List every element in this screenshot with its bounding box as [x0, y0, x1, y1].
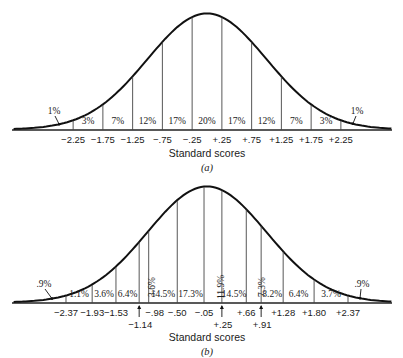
tick-label: −.50 [168, 307, 187, 318]
tick-label: −1.14 [128, 319, 152, 330]
tick-label: +.25 [212, 134, 231, 145]
tail-pointer [55, 116, 59, 124]
percent-label: 12% [258, 116, 276, 126]
percent-label: 17% [228, 116, 246, 126]
figure-caption: (b) [201, 346, 214, 358]
tail-percent-label: 1% [351, 106, 364, 116]
percent-label: 6.4% [118, 289, 138, 299]
chart-a: −2.25−1.75−1.25−.75−.25+.25+.75+1.25+1.7… [12, 14, 392, 175]
tick-label: +.91 [253, 319, 272, 330]
tick-label: −2.37 [54, 307, 78, 318]
tick-label: −1.75 [91, 134, 115, 145]
percent-label: 7% [111, 116, 124, 126]
arrow-head-icon [137, 305, 141, 309]
tick-label: −.98 [145, 307, 164, 318]
percent-label: 17% [169, 116, 187, 126]
tick-label: −.25 [183, 134, 202, 145]
figure-caption: (a) [201, 162, 214, 174]
percent-label: 17.3% [178, 289, 203, 299]
percent-label: 12% [139, 116, 157, 126]
chart-b: −2.37−1.93−1.53−1.14−.98−.50−.05+.25+.66… [12, 187, 392, 358]
tick-label: +.66 [237, 307, 256, 318]
percent-label: 3% [82, 116, 95, 126]
x-axis-label: Standard scores [169, 331, 245, 343]
tick-label: −1.25 [121, 134, 145, 145]
tick-label: +1.28 [271, 307, 295, 318]
tick-label: +.75 [242, 134, 261, 145]
tick-label: +1.25 [269, 134, 293, 145]
tick-label: +1.75 [299, 134, 323, 145]
percent-label: 1.1% [69, 289, 89, 299]
tick-label: −1.53 [104, 307, 128, 318]
tick-label: −.05 [195, 307, 214, 318]
percent-label: 20% [198, 116, 216, 126]
tick-label: +2.37 [336, 307, 360, 318]
tick-label: +2.25 [329, 134, 353, 145]
tick-label: +.25 [213, 319, 232, 330]
tail-percent-label: .9% [354, 279, 369, 289]
tick-label: −.75 [153, 134, 172, 145]
normal-curves-figure: −2.25−1.75−1.25−.75−.25+.25+.75+1.25+1.7… [0, 0, 403, 358]
tail-pointer [45, 289, 52, 299]
percent-label: 3.6% [94, 289, 114, 299]
arrow-head-icon [220, 305, 224, 309]
percent-label: 3.7% [321, 289, 341, 299]
percent-label: 6.4% [289, 289, 309, 299]
arrow-tip-icon [58, 123, 61, 126]
arrow-head-icon [259, 305, 263, 309]
tail-percent-label: 1% [48, 106, 61, 116]
percent-label: 3% [320, 116, 333, 126]
percent-label: 14.5% [222, 289, 247, 299]
arrow-tip-icon [352, 122, 355, 125]
percent-label: 7% [290, 116, 303, 126]
arrow-tip-icon [359, 297, 362, 300]
tail-percent-label: .9% [36, 279, 51, 289]
percent-label: 8.2% [262, 289, 282, 299]
normal-curve [14, 14, 392, 129]
normal-curve [14, 187, 392, 302]
tail-pointer [360, 289, 361, 298]
arrow-tip-icon [51, 297, 54, 300]
tick-label: −1.93 [80, 307, 104, 318]
tick-label: +1.80 [302, 307, 326, 318]
percent-label: 14.5% [151, 289, 176, 299]
tick-label: −2.25 [61, 134, 85, 145]
x-axis-label: Standard scores [169, 147, 245, 159]
